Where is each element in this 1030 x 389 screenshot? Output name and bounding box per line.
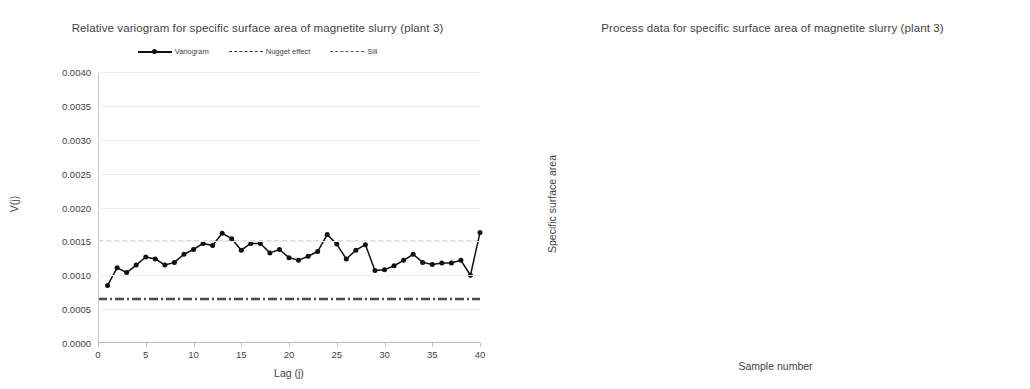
x-tick-label: 35 xyxy=(427,349,438,360)
data-point xyxy=(191,247,196,252)
x-tick-mark xyxy=(289,343,290,347)
y-tick-label: 0.0000 xyxy=(62,338,91,349)
data-point xyxy=(220,231,225,236)
y-tick-label: 0.0015 xyxy=(62,236,91,247)
y-tick-label: 0.0035 xyxy=(62,100,91,111)
variogram-chart-title: Relative variogram for specific surface … xyxy=(0,22,515,34)
process-data-chart-panel: Process data for specific surface area o… xyxy=(515,0,1030,389)
x-tick-label: 25 xyxy=(331,349,342,360)
data-point xyxy=(210,243,215,248)
gridline xyxy=(98,275,480,276)
x-tick-label: 40 xyxy=(475,349,486,360)
x-tick-label: 5 xyxy=(143,349,148,360)
x-tick-mark xyxy=(432,343,433,347)
data-point xyxy=(143,254,148,259)
data-point xyxy=(382,267,387,272)
data-point xyxy=(401,258,406,263)
gridline xyxy=(98,309,480,310)
legend-item-variogram: Variogram xyxy=(138,47,209,56)
process-data-x-axis-title: Sample number xyxy=(548,360,1003,372)
data-point xyxy=(449,261,454,266)
x-tick-mark xyxy=(480,343,481,347)
process-data-chart-title: Process data for specific surface area o… xyxy=(515,22,1030,34)
data-point xyxy=(153,256,158,261)
data-point xyxy=(344,256,349,261)
data-point xyxy=(287,255,292,260)
legend-label-variogram: Variogram xyxy=(175,47,209,56)
y-tick-label: 0.0005 xyxy=(62,304,91,315)
gridline xyxy=(98,208,480,209)
variogram-line-icon xyxy=(138,47,172,56)
gridline xyxy=(98,140,480,141)
data-point xyxy=(315,249,320,254)
x-tick-mark xyxy=(194,343,195,347)
data-point xyxy=(411,252,416,257)
data-point xyxy=(239,248,244,253)
gridline xyxy=(98,106,480,107)
sill-line-icon xyxy=(330,47,364,56)
legend-label-nugget-effect: Nugget effect xyxy=(266,47,310,56)
x-tick-label: 0 xyxy=(95,349,100,360)
y-tick-label: 0.0040 xyxy=(62,67,91,78)
y-tick-label: 0.0025 xyxy=(62,168,91,179)
data-point xyxy=(306,254,311,259)
data-point xyxy=(353,248,358,253)
data-point xyxy=(478,230,483,235)
data-point xyxy=(181,252,186,257)
process-data-y-axis-title: Specific surface area xyxy=(546,144,558,264)
nugget-line-icon xyxy=(229,47,263,56)
data-point xyxy=(325,232,330,237)
data-point xyxy=(372,268,377,273)
data-point xyxy=(105,283,110,288)
legend-item-nugget-effect: Nugget effect xyxy=(229,47,310,56)
data-point xyxy=(267,250,272,255)
legend-label-sill: Sill xyxy=(367,47,377,56)
x-tick-label: 20 xyxy=(284,349,295,360)
data-point xyxy=(162,263,167,268)
x-tick-label: 15 xyxy=(236,349,247,360)
data-point xyxy=(420,260,425,265)
variogram-x-axis-title: Lag (j) xyxy=(98,367,480,379)
data-point xyxy=(363,242,368,247)
gridline xyxy=(98,174,480,175)
data-point xyxy=(296,258,301,263)
variogram-y-axis-title: V(j) xyxy=(8,174,20,234)
gridline xyxy=(98,241,480,242)
data-point xyxy=(439,261,444,266)
x-tick-mark xyxy=(146,343,147,347)
x-tick-label: 10 xyxy=(188,349,199,360)
data-point xyxy=(277,247,282,252)
variogram-plot-area: 0.00000.00050.00100.00150.00200.00250.00… xyxy=(98,72,480,343)
x-tick-label: 30 xyxy=(379,349,390,360)
data-point xyxy=(458,258,463,263)
x-tick-mark xyxy=(98,343,99,347)
y-tick-label: 0.0020 xyxy=(62,202,91,213)
x-tick-mark xyxy=(385,343,386,347)
data-point xyxy=(392,263,397,268)
figure-container: Relative variogram for specific surface … xyxy=(0,0,1030,389)
data-point xyxy=(134,263,139,268)
variogram-legend: Variogram Nugget effect Sill xyxy=(0,47,515,56)
data-point xyxy=(430,262,435,267)
variogram-chart-panel: Relative variogram for specific surface … xyxy=(0,0,515,389)
y-tick-label: 0.0030 xyxy=(62,134,91,145)
gridline xyxy=(98,72,480,73)
data-point xyxy=(115,265,120,270)
y-tick-label: 0.0010 xyxy=(62,270,91,281)
legend-item-sill: Sill xyxy=(330,47,377,56)
x-tick-mark xyxy=(241,343,242,347)
x-tick-mark xyxy=(337,343,338,347)
data-point xyxy=(172,260,177,265)
